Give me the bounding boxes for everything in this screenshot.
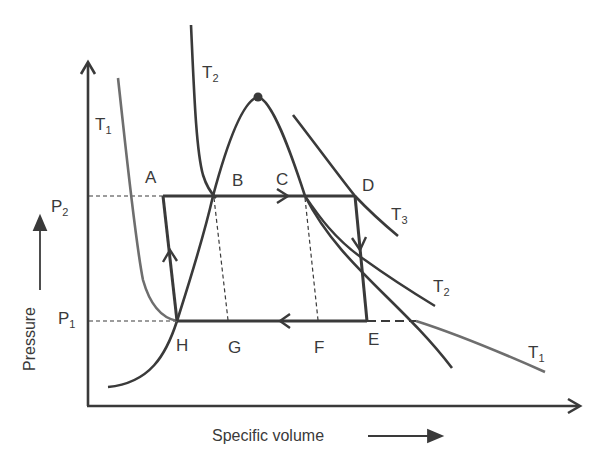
label-t3: T3	[391, 206, 408, 226]
saturation-dome	[108, 97, 452, 387]
label-t2-top: T2	[202, 64, 219, 84]
label-p2: P2	[51, 198, 68, 218]
point-label-h: H	[176, 337, 188, 354]
label-t1-left: T1	[95, 116, 112, 136]
diagram-graphics	[0, 0, 614, 464]
point-label-e: E	[368, 331, 379, 348]
y-axis-title: Pressure	[21, 307, 39, 371]
label-t1-right: T1	[528, 344, 545, 364]
point-label-c: C	[276, 171, 288, 188]
volume-arrow-icon	[428, 430, 442, 442]
point-label-b: B	[232, 172, 243, 189]
label-p1: P1	[58, 310, 75, 330]
cycle-path	[163, 196, 367, 321]
pressure-arrow-icon	[34, 216, 46, 230]
process-d-e	[355, 196, 367, 321]
pv-diagram: T1 T2 T3 T2 T1 P2 P1 A B C D E F G H Spe…	[0, 0, 614, 464]
isotherm-t1-left	[118, 78, 177, 321]
isotherm-t3	[293, 115, 398, 236]
pressure-guides	[89, 196, 318, 321]
point-label-a: A	[145, 169, 156, 186]
x-axis-title: Specific volume	[212, 427, 324, 445]
isotherm-t2-left	[191, 25, 216, 198]
point-label-f: F	[314, 339, 324, 356]
flow-arrows	[163, 189, 366, 328]
b-g-dashed-line	[214, 198, 228, 320]
critical-point	[254, 93, 263, 102]
point-label-d: D	[362, 177, 374, 194]
point-label-g: G	[228, 339, 241, 356]
label-t2-right: T2	[433, 278, 450, 298]
